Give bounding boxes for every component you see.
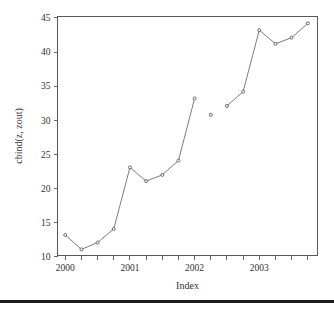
series-line-zout <box>227 23 308 106</box>
data-point <box>193 97 196 100</box>
y-tick-label: 35 <box>41 81 51 91</box>
line-chart: 10152025303540452000200120022003Indexcbi… <box>0 0 334 311</box>
data-point <box>258 29 261 32</box>
data-point <box>80 248 83 251</box>
page-bottom-rule <box>0 300 334 303</box>
data-point <box>290 36 293 39</box>
y-tick-label: 40 <box>41 47 51 57</box>
series-line-z <box>65 98 194 249</box>
y-tick-label: 45 <box>41 13 51 23</box>
chart-plot-area: 10152025303540452000200120022003Indexcbi… <box>0 0 334 311</box>
data-point <box>161 173 164 176</box>
data-point <box>242 90 245 93</box>
data-point <box>209 113 212 116</box>
data-point <box>128 166 131 169</box>
y-tick-label: 25 <box>41 150 51 160</box>
x-tick-label: 2002 <box>185 263 204 273</box>
y-axis-title: cbind(z, zout) <box>13 108 25 164</box>
data-point <box>177 159 180 162</box>
x-axis-title: Index <box>176 280 199 291</box>
plot-frame <box>58 17 318 256</box>
y-tick-label: 20 <box>41 184 51 194</box>
data-point <box>274 42 277 45</box>
y-tick-label: 10 <box>41 252 51 262</box>
figure-container: 10152025303540452000200120022003Indexcbi… <box>0 0 334 311</box>
data-point <box>112 227 115 230</box>
data-point <box>306 22 309 25</box>
x-tick-label: 2001 <box>120 263 139 273</box>
x-tick-label: 2003 <box>250 263 269 273</box>
x-tick-label: 2000 <box>56 263 75 273</box>
data-point <box>64 234 67 237</box>
data-point <box>96 241 99 244</box>
data-point <box>225 104 228 107</box>
data-point <box>145 180 148 183</box>
y-tick-label: 15 <box>41 218 51 228</box>
y-tick-label: 30 <box>41 116 51 126</box>
